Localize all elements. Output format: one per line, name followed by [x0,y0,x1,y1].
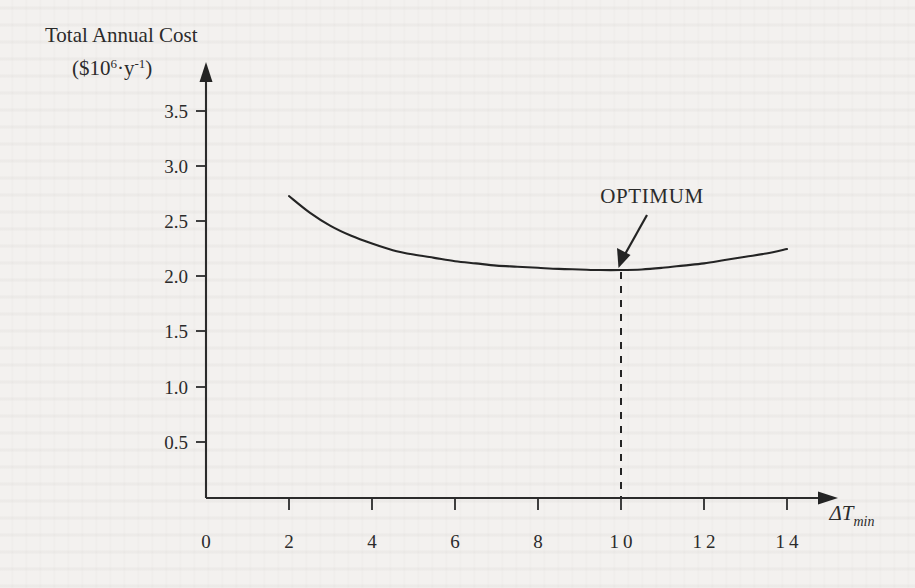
x-axis-title-delta-t: ΔT [828,501,854,525]
y-tick-1.0: 1.0 [164,377,206,398]
x-tick-label-8: 8 [533,531,543,552]
x-tick-label-2: 2 [284,531,294,552]
y-tick-3.5: 3.5 [164,101,206,122]
total-annual-cost-curve [289,196,787,270]
y-tick-label-0.5: 0.5 [164,432,188,453]
y-tick-label-2.5: 2.5 [164,211,188,232]
x-tick-2: 2 [284,498,294,552]
y-axis-ticks: 3.5 3.0 2.5 2.0 1.5 1.0 [164,101,206,453]
y-axis-units-exponent-neg1: -1 [135,56,146,71]
x-tick-label-4: 4 [367,531,377,552]
figure-canvas: Total Annual Cost ($106·y-1) 3.5 3.0 2.5 [0,0,915,588]
y-tick-label-3.5: 3.5 [164,101,188,122]
y-axis-units-suffix: ) [145,56,152,80]
y-tick-label-1.0: 1.0 [164,377,188,398]
x-axis-title-subscript-min: min [854,514,875,529]
y-tick-label-1.5: 1.5 [164,321,188,342]
y-tick-2.5: 2.5 [164,211,206,232]
y-axis-units-prefix: ($10 [72,56,111,80]
x-tick-10: 10 [610,498,637,552]
x-tick-label-14: 14 [776,531,803,552]
x-tick-4: 4 [367,498,377,552]
y-axis-title-line1: Total Annual Cost [45,23,198,47]
x-tick-label-10: 10 [610,531,637,552]
x-tick-label-0: 0 [201,531,211,552]
y-tick-1.5: 1.5 [164,321,206,342]
y-tick-2.0: 2.0 [164,266,206,287]
chart-plot: Total Annual Cost ($106·y-1) 3.5 3.0 2.5 [0,0,915,588]
optimum-annotation-arrowhead [617,248,631,268]
x-axis-ticks: 0 2 4 6 8 10 12 [201,498,802,552]
x-tick-label-12: 12 [693,531,720,552]
y-tick-label-2.0: 2.0 [164,266,188,287]
x-tick-6: 6 [450,498,460,552]
y-axis-units-mid: ·y [117,56,135,80]
y-axis-title-line2: ($106·y-1) [72,56,152,80]
y-tick-3.0: 3.0 [164,156,206,177]
x-tick-14: 14 [776,498,803,552]
x-tick-label-6: 6 [450,531,460,552]
x-tick-8: 8 [533,498,543,552]
x-axis-title: ΔTmin [828,501,874,529]
x-tick-12: 12 [693,498,720,552]
y-tick-0.5: 0.5 [164,432,206,453]
optimum-annotation-label: OPTIMUM [600,184,703,208]
y-axis-arrowhead [200,62,213,82]
optimum-annotation-arrow-shaft [624,215,647,256]
y-tick-label-3.0: 3.0 [164,156,188,177]
